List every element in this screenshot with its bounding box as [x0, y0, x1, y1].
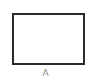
shape-label: A [0, 68, 91, 78]
rectangle-shape [12, 13, 85, 65]
